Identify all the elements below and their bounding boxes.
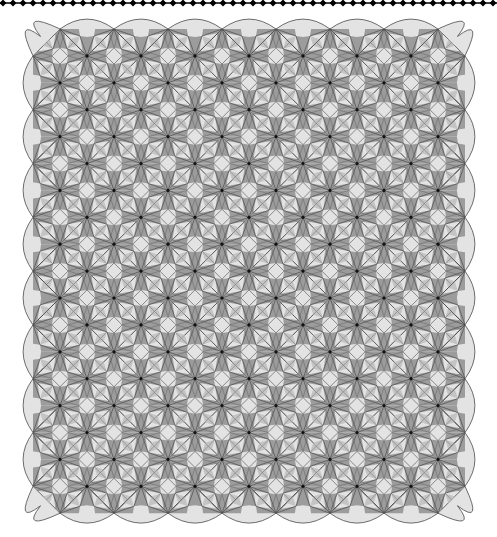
vertex-dot — [85, 270, 88, 273]
vertex-dot — [85, 162, 88, 165]
border-diamond-icon — [140, 0, 147, 7]
vertex-dot — [166, 404, 169, 407]
vertex-dot — [193, 108, 196, 111]
vertex-dot — [166, 81, 169, 84]
vertex-dot — [247, 216, 250, 219]
vertex-dot — [58, 296, 61, 299]
vertex-dot — [274, 458, 277, 461]
border-diamond-icon — [60, 0, 67, 7]
vertex-dot — [436, 350, 439, 353]
border-diamond-icon — [90, 0, 97, 7]
vertex-dot — [409, 485, 412, 488]
border-diamond-icon — [460, 0, 467, 7]
vertex-dot — [193, 485, 196, 488]
vertex-dot — [436, 296, 439, 299]
vertex-dot — [139, 431, 142, 434]
vertex-dot — [247, 377, 250, 380]
border-diamond-icon — [290, 0, 297, 7]
vertex-dot — [247, 485, 250, 488]
border-diamond-icon — [490, 0, 497, 7]
border-diamond-icon — [210, 0, 217, 7]
vertex-dot — [247, 323, 250, 326]
border-diamond-icon — [400, 0, 407, 7]
vertex-dot — [166, 350, 169, 353]
border-diamond-icon — [30, 0, 37, 7]
vertex-dot — [409, 108, 412, 111]
vertex-dot — [85, 431, 88, 434]
vertex-dot — [139, 216, 142, 219]
vertex-dot — [247, 108, 250, 111]
vertex-dot — [220, 243, 223, 246]
vertex-dot — [301, 54, 304, 57]
vertex-dot — [301, 431, 304, 434]
vertex-dot — [220, 81, 223, 84]
vertex-dot — [436, 81, 439, 84]
vertex-dot — [139, 270, 142, 273]
border-diamond-icon — [280, 0, 287, 7]
vertex-dot — [436, 404, 439, 407]
border-diamond-icon — [250, 0, 257, 7]
vertex-dot — [436, 135, 439, 138]
border-diamond-icon — [150, 0, 157, 7]
vertex-dot — [355, 485, 358, 488]
border-diamond-icon — [450, 0, 457, 7]
border-diamond-icon — [410, 0, 417, 7]
vertex-dot — [301, 108, 304, 111]
vertex-dot — [409, 323, 412, 326]
vertex-dot — [301, 485, 304, 488]
vertex-dot — [220, 458, 223, 461]
vertex-dot — [139, 377, 142, 380]
vertex-dot — [112, 189, 115, 192]
vertex-dot — [139, 323, 142, 326]
vertex-dot — [382, 458, 385, 461]
vertex-dot — [328, 81, 331, 84]
vertex-dot — [220, 296, 223, 299]
vertex-dot — [85, 323, 88, 326]
vertex-dot — [139, 54, 142, 57]
vertex-dot — [58, 243, 61, 246]
quilt-pattern — [0, 0, 497, 537]
border-diamond-icon — [10, 0, 17, 7]
vertex-dot — [85, 216, 88, 219]
vertex-dot — [58, 458, 61, 461]
vertex-dot — [112, 458, 115, 461]
border-diamond-icon — [50, 0, 57, 7]
border-diamond-icon — [270, 0, 277, 7]
vertex-dot — [355, 108, 358, 111]
vertex-dot — [112, 243, 115, 246]
border-diamond-icon — [190, 0, 197, 7]
vertex-dot — [301, 162, 304, 165]
vertex-dot — [112, 296, 115, 299]
border-diamond-icon — [320, 0, 327, 7]
vertex-dot — [301, 377, 304, 380]
vertex-dot — [328, 350, 331, 353]
vertex-dot — [85, 54, 88, 57]
vertex-dot — [274, 135, 277, 138]
border-diamond-icon — [440, 0, 447, 7]
vertex-dot — [382, 296, 385, 299]
border-diamond-icon — [300, 0, 307, 7]
vertex-dot — [112, 350, 115, 353]
vertex-dot — [274, 189, 277, 192]
vertex-dot — [274, 296, 277, 299]
vertex-dot — [274, 404, 277, 407]
vertex-dot — [193, 162, 196, 165]
border-diamond-icon — [160, 0, 167, 7]
vertex-dot — [58, 350, 61, 353]
vertex-dot — [355, 323, 358, 326]
border-diamond-icon — [170, 0, 177, 7]
vertex-dot — [247, 270, 250, 273]
vertex-dot — [409, 377, 412, 380]
border-diamond-icon — [340, 0, 347, 7]
border-diamond-icon — [100, 0, 107, 7]
vertex-dot — [58, 81, 61, 84]
vertex-dot — [328, 404, 331, 407]
vertex-dot — [328, 243, 331, 246]
vertex-dot — [193, 431, 196, 434]
border-diamond-icon — [310, 0, 317, 7]
border-diamond-icon — [120, 0, 127, 7]
vertex-dot — [247, 162, 250, 165]
vertex-dot — [58, 404, 61, 407]
vertex-dot — [274, 243, 277, 246]
border-diamond-icon — [390, 0, 397, 7]
